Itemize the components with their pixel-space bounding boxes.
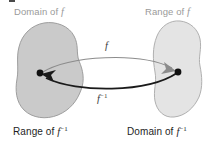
label-domain-of-f-text: Domain of (14, 6, 58, 17)
label-domain-of-f-inverse: Domain of f−1 (127, 125, 187, 137)
label-range-of-f-inverse-exponent: −1 (60, 125, 67, 133)
curve-label-f: f (105, 40, 108, 51)
label-range-of-f: Range of f (145, 6, 190, 17)
label-range-of-f-symbol: f (187, 6, 190, 17)
label-domain-of-f: Domain of f (14, 6, 64, 17)
curve-label-f-symbol: f (105, 40, 108, 51)
left-set-blob (16, 23, 83, 118)
label-range-of-f-text: Range of (145, 6, 184, 17)
inverse-function-diagram: Domain of f Range of f Range of f−1 Doma… (0, 0, 217, 142)
label-domain-of-f-inverse-exponent: −1 (179, 125, 186, 133)
curve-label-f-inverse-exponent: −1 (100, 92, 107, 100)
domain-point (37, 70, 44, 77)
curve-label-f-inverse: f−1 (97, 92, 107, 104)
label-domain-of-f-inverse-text: Domain of (127, 126, 173, 137)
label-domain-of-f-symbol: f (61, 6, 64, 17)
diagram-canvas (0, 0, 217, 142)
range-point (175, 69, 182, 76)
label-range-of-f-inverse: Range of f−1 (13, 125, 68, 137)
label-range-of-f-inverse-text: Range of (13, 126, 54, 137)
